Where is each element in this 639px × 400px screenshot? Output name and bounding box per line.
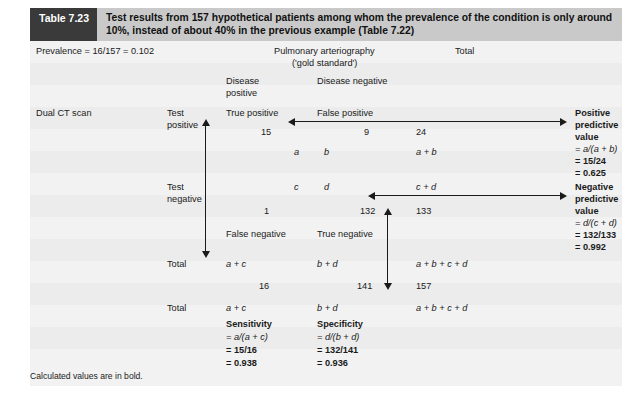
sensitivity-substitution: = 15/16 bbox=[226, 345, 257, 356]
row-band bbox=[30, 195, 622, 217]
table-number-tag: Table 7.23 bbox=[30, 8, 97, 42]
sensitivity-title: Sensitivity bbox=[226, 319, 272, 330]
row-group-label-dual-ct-scan: Dual CT scan bbox=[36, 108, 92, 119]
specificity-arrow-line bbox=[387, 215, 388, 283]
disease-positive-header-line2: positive bbox=[226, 88, 257, 99]
test-positive-label-line2: positive bbox=[167, 120, 198, 131]
symbol-a-plus-b: a + b bbox=[416, 147, 437, 158]
row-band bbox=[30, 283, 622, 305]
sensitivity-arrow-line bbox=[205, 126, 206, 251]
ppv-arrow-head-left bbox=[288, 118, 295, 126]
table-footnote: Calculated values are in bold. bbox=[30, 371, 143, 381]
false-negative-label: False negative bbox=[226, 229, 286, 240]
count-test-negative-total: 133 bbox=[416, 206, 431, 217]
sensitivity-result: = 0.938 bbox=[226, 358, 257, 369]
count-test-positive-total: 24 bbox=[416, 127, 426, 138]
table-caption-text: Test results from 157 hypothetical patie… bbox=[97, 8, 622, 42]
symbol-d: d bbox=[324, 182, 329, 193]
total-column-header: Total bbox=[455, 46, 474, 57]
total-lower-symbol-col3: a + b + c + d bbox=[416, 303, 467, 314]
npv-arrow-line bbox=[375, 195, 560, 196]
ppv-title-line3: value bbox=[575, 132, 599, 143]
test-negative-label-line1: Test bbox=[167, 182, 184, 193]
symbol-c-plus-d: c + d bbox=[416, 182, 436, 193]
npv-result: = 0.992 bbox=[575, 242, 606, 253]
total-lower-symbol-col1: a + c bbox=[226, 303, 246, 314]
sensitivity-arrow-head-up bbox=[202, 119, 210, 126]
ppv-substitution: = 15/24 bbox=[575, 156, 606, 167]
total-lower-label: Total bbox=[167, 303, 186, 314]
count-false-positive: 9 bbox=[364, 127, 369, 138]
gold-standard-header-line2: ('gold standard') bbox=[292, 58, 357, 69]
table-caption-bar: Table 7.23 Test results from 157 hypothe… bbox=[30, 8, 622, 42]
total-upper-symbol-col1: a + c bbox=[226, 259, 246, 270]
specificity-title: Specificity bbox=[317, 319, 363, 330]
total-upper-symbol-col2: b + d bbox=[317, 259, 338, 270]
count-true-negative: 132 bbox=[360, 206, 375, 217]
npv-substitution: = 132/133 bbox=[575, 230, 616, 241]
disease-negative-header: Disease negative bbox=[317, 76, 387, 87]
npv-title-line3: value bbox=[575, 206, 599, 217]
specificity-formula: = d/(b + d) bbox=[317, 332, 359, 343]
specificity-result: = 0.936 bbox=[317, 358, 348, 369]
npv-title-line2: predictive bbox=[575, 194, 618, 205]
specificity-arrow-head-up bbox=[384, 208, 392, 215]
ppv-arrow-head-right bbox=[560, 118, 567, 126]
sensitivity-arrow-head-down bbox=[202, 251, 210, 258]
ppv-formula: = a/(a + b) bbox=[575, 144, 617, 155]
table-figure: Table 7.23 Test results from 157 hypothe… bbox=[0, 0, 639, 400]
disease-positive-header-line1: Disease bbox=[226, 76, 259, 87]
gold-standard-header-line1: Pulmonary arteriography bbox=[274, 46, 375, 57]
npv-arrow-head-right bbox=[560, 192, 567, 200]
test-negative-label-line2: negative bbox=[167, 194, 202, 205]
symbol-c: c bbox=[294, 182, 299, 193]
test-positive-label-line1: Test bbox=[167, 108, 184, 119]
false-positive-label: False positive bbox=[317, 108, 373, 119]
count-total-disease-negative: 141 bbox=[357, 281, 372, 292]
npv-arrow-head-left bbox=[368, 192, 375, 200]
count-grand-total: 157 bbox=[416, 281, 431, 292]
ppv-title-line1: Positive bbox=[575, 108, 610, 119]
npv-formula: = d/(c + d) bbox=[575, 218, 617, 229]
specificity-substitution: = 132/141 bbox=[317, 345, 358, 356]
row-band bbox=[30, 239, 622, 261]
total-upper-label: Total bbox=[167, 259, 186, 270]
count-true-positive: 15 bbox=[261, 127, 271, 138]
npv-title-line1: Negative bbox=[575, 182, 613, 193]
total-upper-symbol-col3: a + b + c + d bbox=[416, 259, 467, 270]
ppv-title-line2: predictive bbox=[575, 120, 618, 131]
count-total-disease-positive: 16 bbox=[259, 281, 269, 292]
table-body: Prevalence = 16/157 = 0.102 Pulmonary ar… bbox=[30, 41, 622, 386]
prevalence-value: Prevalence = 16/157 = 0.102 bbox=[36, 46, 154, 57]
ppv-result: = 0.625 bbox=[575, 168, 606, 179]
total-lower-symbol-col2: b + d bbox=[317, 303, 338, 314]
true-negative-label: True negative bbox=[317, 229, 373, 240]
true-positive-label: True positive bbox=[226, 108, 278, 119]
ppv-arrow-line bbox=[295, 121, 560, 122]
symbol-b: b bbox=[324, 147, 329, 158]
symbol-a: a bbox=[294, 147, 299, 158]
sensitivity-formula: = a/(a + c) bbox=[226, 332, 268, 343]
specificity-arrow-head-down bbox=[384, 283, 392, 290]
count-false-negative: 1 bbox=[264, 206, 269, 217]
